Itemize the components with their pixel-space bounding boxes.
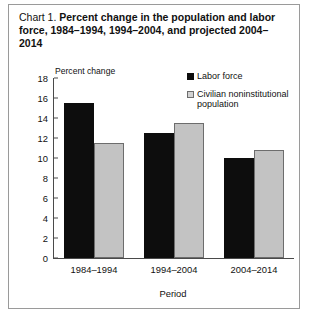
y-axis-tick-label: 8 bbox=[43, 173, 54, 184]
bar-group: 1994–2004 bbox=[134, 78, 214, 258]
chart-frame: Chart 1. Percent change in the populatio… bbox=[8, 4, 300, 309]
y-axis-tick-label: 16 bbox=[38, 93, 54, 104]
bar-labor-force[interactable] bbox=[144, 133, 174, 258]
x-axis-label: Period bbox=[53, 288, 293, 299]
y-axis-tick-label: 6 bbox=[43, 193, 54, 204]
x-axis-tick-label: 1984–1994 bbox=[71, 264, 118, 275]
y-axis-tick-label: 0 bbox=[43, 253, 54, 264]
bar-civilian-population[interactable] bbox=[94, 143, 124, 258]
bar-groups: 1984–19941994–20042004–2014 bbox=[54, 78, 294, 258]
chart-title-main: Percent change in the population and lab… bbox=[19, 11, 275, 49]
y-axis-tick-label: 18 bbox=[38, 73, 54, 84]
x-axis-tick-label: 1994–2004 bbox=[151, 264, 198, 275]
y-axis-label: Percent change bbox=[55, 66, 115, 76]
y-axis-tick-label: 4 bbox=[43, 213, 54, 224]
y-axis-tick-label: 10 bbox=[38, 153, 54, 164]
bar-group: 1984–1994 bbox=[54, 78, 134, 258]
chart-title: Chart 1. Percent change in the populatio… bbox=[19, 11, 287, 51]
bar-civilian-population[interactable] bbox=[174, 123, 204, 258]
y-axis-tick-label: 2 bbox=[43, 233, 54, 244]
chart-title-lead: Chart 1. bbox=[19, 11, 56, 23]
plot-area: 024681012141618 1984–19941994–20042004–2… bbox=[53, 78, 294, 259]
bar-group: 2004–2014 bbox=[214, 78, 294, 258]
bar-labor-force[interactable] bbox=[64, 103, 94, 258]
x-axis-tick-label: 2004–2014 bbox=[231, 264, 278, 275]
y-axis-tick-label: 12 bbox=[38, 133, 54, 144]
bar-civilian-population[interactable] bbox=[254, 150, 284, 258]
y-axis-tick-label: 14 bbox=[38, 113, 54, 124]
bar-labor-force[interactable] bbox=[224, 158, 254, 258]
